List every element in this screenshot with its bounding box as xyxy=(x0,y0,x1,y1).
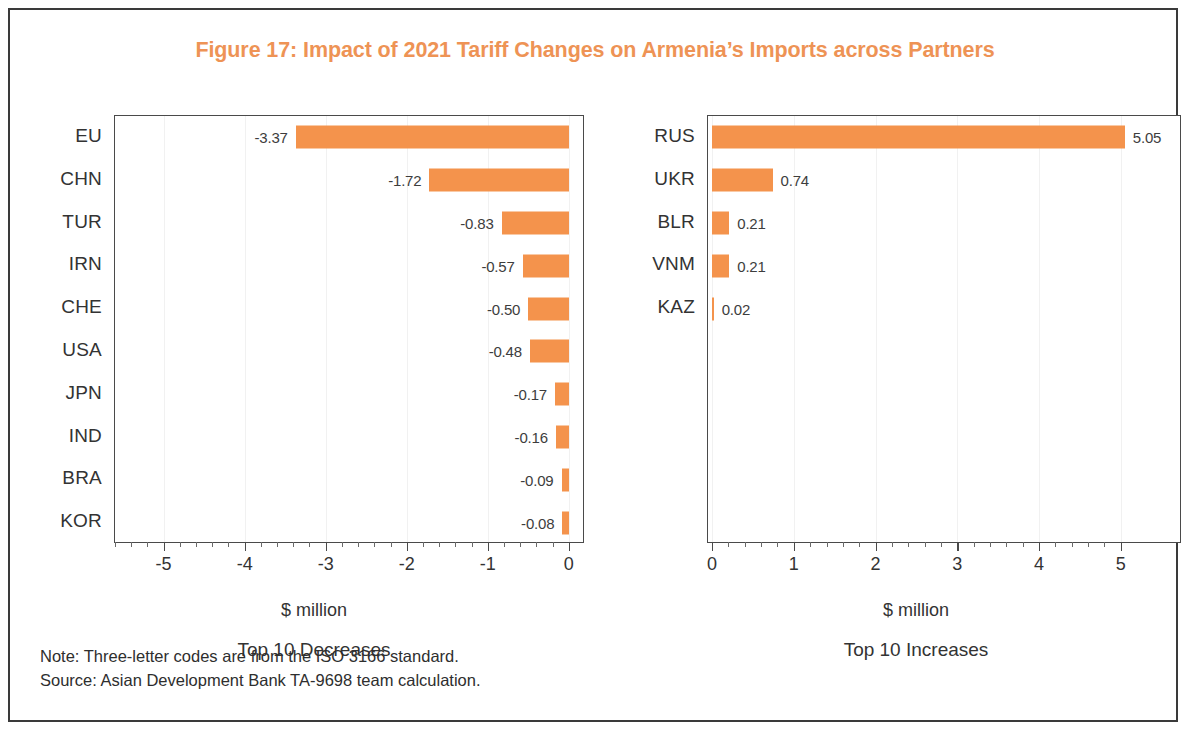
x-tick-label: -3 xyxy=(318,554,334,575)
bar-value-label: -0.48 xyxy=(489,343,522,360)
bar xyxy=(429,169,568,192)
x-tick-label: 1 xyxy=(789,554,799,575)
x-tick-minor xyxy=(196,542,197,547)
bar-value-label: -0.09 xyxy=(520,471,553,488)
x-tick-label: 3 xyxy=(952,554,962,575)
category-label: RUS xyxy=(654,115,695,158)
bar xyxy=(502,211,569,234)
x-tick-minor xyxy=(1088,542,1089,547)
x-tick-minor xyxy=(745,542,746,547)
category-label: BRA xyxy=(62,457,102,500)
bar-row: -3.37 xyxy=(115,116,583,159)
bar xyxy=(712,254,729,277)
bar-value-label: -0.83 xyxy=(460,214,493,231)
x-tick-major xyxy=(164,542,165,551)
bar-value-label: 5.05 xyxy=(1133,129,1161,146)
bar xyxy=(562,468,569,491)
x-tick-label: 0 xyxy=(564,554,574,575)
x-tick-minor xyxy=(439,542,440,547)
x-tick-minor xyxy=(261,542,262,547)
x-tick-minor xyxy=(1023,542,1024,547)
bar-row: -0.83 xyxy=(115,202,583,245)
x-tick-minor xyxy=(536,542,537,547)
x-tick-minor xyxy=(309,542,310,547)
x-tick-minor xyxy=(777,542,778,547)
x-tick-major xyxy=(1039,542,1040,551)
x-tick-minor xyxy=(131,542,132,547)
category-axis-left: EUCHNTURIRNCHEUSAJPNINDBRAKOR xyxy=(40,115,102,543)
bars-left: -3.37-1.72-0.83-0.57-0.50-0.48-0.17-0.16… xyxy=(115,116,583,542)
x-tick-label: -1 xyxy=(480,554,496,575)
x-tick-minor xyxy=(990,542,991,547)
x-tick-minor xyxy=(180,542,181,547)
x-axis-title-right: $ million xyxy=(646,600,1186,621)
x-tick-label: -5 xyxy=(156,554,172,575)
bar xyxy=(555,383,569,406)
x-tick-minor xyxy=(1104,542,1105,547)
x-tick-minor xyxy=(504,542,505,547)
category-label: KAZ xyxy=(657,286,695,329)
x-tick-label: 5 xyxy=(1116,554,1126,575)
bar-row: 0.02 xyxy=(708,287,1180,330)
bar-row: -0.09 xyxy=(115,458,583,501)
bar-row: -1.72 xyxy=(115,159,583,202)
x-tick-label: -2 xyxy=(399,554,415,575)
x-tick-major xyxy=(245,542,246,551)
x-tick-minor xyxy=(472,542,473,547)
bar-row: -0.16 xyxy=(115,416,583,459)
category-label: VNM xyxy=(652,243,695,286)
x-tick-major xyxy=(407,542,408,551)
bar-value-label: -0.16 xyxy=(515,428,548,445)
x-tick-minor xyxy=(974,542,975,547)
bar xyxy=(556,425,569,448)
x-tick-minor xyxy=(115,542,116,547)
bar-value-label: -0.57 xyxy=(481,257,514,274)
category-label: BLR xyxy=(657,201,695,244)
x-tick-minor xyxy=(147,542,148,547)
bar-row: 0.21 xyxy=(708,202,1180,245)
bar-row: -0.17 xyxy=(115,373,583,416)
bar-value-label: -1.72 xyxy=(388,172,421,189)
bar-value-label: 0.21 xyxy=(737,257,765,274)
x-tick-minor xyxy=(342,542,343,547)
figure-frame: Figure 17: Impact of 2021 Tariff Changes… xyxy=(8,8,1178,722)
bar xyxy=(296,126,569,149)
x-tick-label: -4 xyxy=(237,554,253,575)
bar-value-label: -0.08 xyxy=(521,514,554,531)
x-tick-minor xyxy=(810,542,811,547)
x-tick-minor xyxy=(843,542,844,547)
bar xyxy=(712,126,1125,149)
category-label: USA xyxy=(62,329,102,372)
plot-area-increases: 5.050.740.210.210.02 012345 xyxy=(707,115,1181,543)
x-tick-major xyxy=(712,542,713,551)
category-label: JPN xyxy=(66,372,103,415)
figure-title: Figure 17: Impact of 2021 Tariff Changes… xyxy=(10,38,1180,63)
category-label: CHN xyxy=(60,158,102,201)
x-tick-minor xyxy=(941,542,942,547)
x-tick-label: 4 xyxy=(1034,554,1044,575)
category-label: EU xyxy=(75,115,102,158)
category-axis-right: RUSUKRBLRVNMKAZ xyxy=(632,115,695,543)
note-line: Note: Three-letter codes are from the IS… xyxy=(40,644,481,668)
x-tick-minor xyxy=(228,542,229,547)
x-tick-minor xyxy=(925,542,926,547)
bar-row: -0.08 xyxy=(115,501,583,544)
bar xyxy=(712,211,729,234)
x-tick-minor xyxy=(859,542,860,547)
category-label: TUR xyxy=(62,201,102,244)
category-label: IND xyxy=(69,415,102,458)
x-tick-minor xyxy=(761,542,762,547)
x-tick-minor xyxy=(212,542,213,547)
x-tick-minor xyxy=(293,542,294,547)
bar-row: -0.48 xyxy=(115,330,583,373)
x-tick-minor xyxy=(1055,542,1056,547)
category-label: UKR xyxy=(654,158,695,201)
x-tick-label: 0 xyxy=(707,554,717,575)
x-tick-minor xyxy=(374,542,375,547)
bar-value-label: -3.37 xyxy=(255,129,288,146)
x-tick-minor xyxy=(277,542,278,547)
bar xyxy=(530,340,569,363)
plot-area-decreases: -3.37-1.72-0.83-0.57-0.50-0.48-0.17-0.16… xyxy=(114,115,584,543)
bar-row: 5.05 xyxy=(708,116,1180,159)
bar-value-label: -0.50 xyxy=(487,300,520,317)
